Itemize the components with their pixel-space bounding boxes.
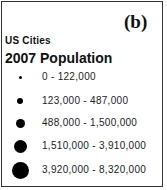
legend-label-5: 3,920,000 - 8,320,000 — [42, 164, 146, 175]
legend-label-1: 0 - 122,000 — [42, 71, 96, 82]
legend-label-4: 1,510,000 - 3,910,000 — [42, 140, 146, 151]
legend-symbol-4 — [14, 140, 27, 153]
legend-label-3: 488,000 - 1,500,000 — [42, 117, 137, 128]
panel-label: (b) — [124, 11, 147, 33]
legend-symbol-2 — [17, 98, 23, 104]
legend-symbol-1 — [19, 76, 22, 79]
legend-subtitle: US Cities — [5, 35, 51, 46]
legend-title: 2007 Population — [5, 50, 112, 66]
legend-symbol-3 — [16, 119, 25, 128]
legend-symbol-5 — [12, 162, 29, 179]
legend-label-2: 123,000 - 487,000 — [42, 95, 128, 106]
